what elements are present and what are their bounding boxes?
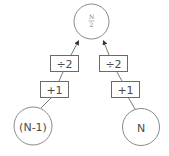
op-left-divide-label: ÷2: [56, 58, 72, 71]
edge-right-divide-to-top: [104, 41, 110, 55]
node-left: (N-1): [14, 107, 52, 145]
op-left-add: +1: [41, 82, 69, 98]
edge-left-divide-to-top: [71, 41, 79, 55]
node-top-denominator: 2: [90, 21, 94, 28]
op-right-divide-label: ÷2: [105, 58, 121, 71]
node-left-label: (N-1): [19, 121, 47, 134]
op-right-divide: ÷2: [100, 56, 128, 72]
node-top: N 2: [74, 4, 109, 39]
node-right-label: N: [137, 122, 145, 135]
edge-right-to-right-add: [128, 97, 135, 109]
edge-right-add-to-right-divide: [117, 72, 122, 81]
flow-diagram: N 2 ÷2 +1 ÷2 +1 (N-1) N: [0, 0, 169, 156]
node-top-numerator: N: [89, 13, 94, 20]
op-left-add-label: +1: [46, 84, 62, 97]
op-right-add: +1: [112, 82, 140, 98]
op-right-add-label: +1: [117, 84, 133, 97]
node-right: N: [123, 109, 160, 146]
op-left-divide: ÷2: [51, 56, 79, 72]
edge-left-add-to-left-divide: [59, 72, 63, 81]
edge-left-to-left-add: [41, 97, 52, 108]
